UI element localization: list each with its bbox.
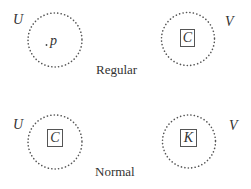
point-marker bbox=[46, 44, 48, 46]
set-label-u: U bbox=[13, 118, 23, 132]
closed-set-label-k: K bbox=[184, 130, 193, 145]
closed-set-box: K bbox=[180, 129, 197, 147]
set-label-u: U bbox=[13, 13, 23, 27]
caption-regular: Regular bbox=[96, 63, 137, 76]
point-label-p: p bbox=[50, 34, 57, 48]
set-label-v: V bbox=[229, 119, 238, 133]
closed-set-box: C bbox=[47, 129, 63, 147]
set-label-v: V bbox=[225, 15, 234, 29]
closed-set-label-c: C bbox=[50, 130, 59, 145]
caption-normal: Normal bbox=[95, 165, 135, 178]
dotted-sets-layer bbox=[0, 0, 251, 189]
separation-axioms-diagram: U p C V Regular U C K V Normal bbox=[0, 0, 251, 189]
closed-set-label-c: C bbox=[183, 30, 192, 45]
closed-set-box: C bbox=[180, 29, 195, 47]
